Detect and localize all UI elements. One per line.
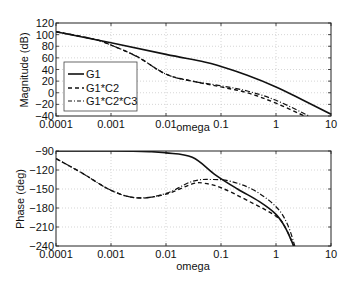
bode-plot: 120100806040200−20−40 0.00010.0010.010.1…: [0, 0, 353, 284]
x-tick-label: 1: [273, 248, 279, 260]
y-tick-label: 20: [42, 75, 54, 87]
y-tick-label: −150: [29, 183, 54, 195]
y-tick-label: −210: [29, 221, 54, 233]
phase-series: [56, 151, 295, 246]
x-tick-label: 0.01: [155, 118, 176, 130]
x-tick-label: 1: [273, 118, 279, 130]
phase-axes-box: [56, 151, 331, 246]
x-tick-label: 0.0001: [39, 248, 73, 260]
y-tick-label: 120: [36, 17, 54, 29]
legend-entry-g1: G1: [86, 68, 101, 80]
x-tick-label: 0.1: [213, 118, 228, 130]
legend-entry-g1c2c3: G1*C2*C3: [86, 95, 137, 107]
series-g1-c2-line: [56, 159, 294, 246]
phase-xlabel: omega: [176, 260, 211, 272]
y-tick-label: −20: [35, 98, 54, 110]
magnitude-ylabel: Magnitude (dB): [18, 32, 30, 107]
y-tick-label: −180: [29, 202, 54, 214]
x-tick-label: 0.0001: [39, 118, 73, 130]
phase-grid: [56, 151, 331, 246]
magnitude-xlabel: omega: [176, 121, 211, 133]
x-tick-label: 10: [325, 118, 337, 130]
y-tick-label: 0: [48, 87, 54, 99]
y-tick-label: 80: [42, 40, 54, 52]
magnitude-plot: 120100806040200−20−40 0.00010.0010.010.1…: [18, 17, 337, 133]
y-tick-label: −90: [35, 145, 54, 157]
y-tick-label: 60: [42, 52, 54, 64]
legend: G1 G1*C2 G1*C2*C3: [64, 62, 137, 111]
phase-yticks: −90−120−150−180−210−240: [29, 145, 331, 252]
legend-entry-g1c2: G1*C2: [86, 82, 119, 94]
x-tick-label: 0.001: [97, 118, 125, 130]
series-g1-line: [56, 151, 294, 246]
y-tick-label: −120: [29, 164, 54, 176]
x-tick-label: 0.01: [155, 248, 176, 260]
y-tick-label: 100: [36, 29, 54, 41]
x-tick-label: 10: [325, 248, 337, 260]
x-tick-label: 0.1: [213, 248, 228, 260]
phase-ylabel: Phase (deg): [14, 169, 26, 229]
y-tick-label: 40: [42, 64, 54, 76]
phase-plot: −90−120−150−180−210−240 0.00010.0010.010…: [14, 145, 337, 272]
x-tick-label: 0.001: [97, 248, 125, 260]
